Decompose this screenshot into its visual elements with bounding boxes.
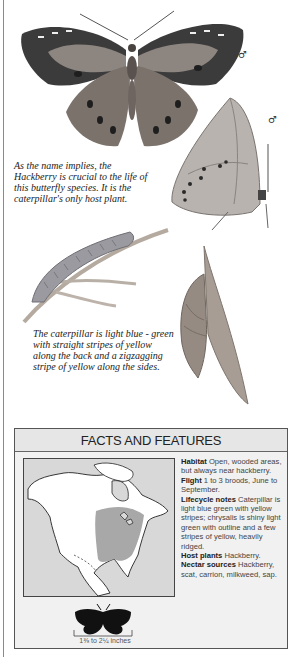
male-symbol: ♂ [268,114,277,125]
caterpillar-caption: The caterpillar is light blue - green wi… [33,328,183,372]
range-map [23,458,175,597]
male-symbol: ♂ [238,49,247,60]
caterpillar-on-stem-illustration [20,222,170,327]
fact-label: Host plants [181,551,222,560]
facts-title: FACTS AND FEATURES [15,429,287,452]
north-america-map-icon [24,459,174,596]
facts-text: Habitat Open, wooded areas, but always n… [181,457,285,579]
fact-lifecycle: Lifecycle notes Caterpillar is light blu… [181,495,285,551]
fact-label: Nectar sources [181,560,236,569]
page-border [3,0,4,657]
fact-label: Habitat [181,457,207,466]
fact-nectar-sources: Nectar sources Hackberry, scat, carrion,… [181,560,285,579]
fact-value: Hackberry. [224,551,260,560]
butterfly-closed-wings-illustration [168,94,278,234]
fact-host-plants: Host plants Hackberry. [181,551,285,560]
chrysalis-on-leaf-illustration [174,244,254,414]
fact-habitat: Habitat Open, wooded areas, but always n… [181,457,285,476]
facts-and-features-panel: FACTS AND FEATURES Habitat Open, wooded … [14,428,288,649]
butterfly-silhouette-icon [73,604,135,638]
fact-label: Flight [181,476,202,485]
fact-flight: Flight 1 to 3 broods, June to September. [181,476,285,495]
wingspan-label: 1⅜ to 2¼ inches [70,637,140,644]
fact-label: Lifecycle notes [181,495,236,504]
host-plant-caption: As the name implies, the Hackberry is cr… [14,160,164,204]
